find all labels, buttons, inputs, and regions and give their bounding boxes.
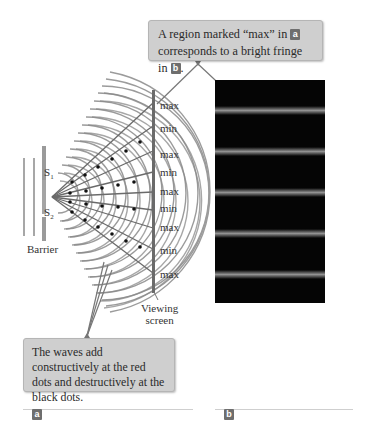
divider	[23, 409, 193, 410]
screen-marker: max	[160, 99, 179, 111]
screen-marker: min	[160, 244, 177, 256]
part-badge-a: a	[32, 409, 42, 420]
screen-marker: max	[160, 221, 179, 233]
bright-fringe	[215, 229, 325, 238]
barrier-label: Barrier	[27, 243, 58, 255]
part-badge-a: a	[290, 29, 300, 40]
screen-marker: max	[160, 185, 179, 197]
screen-marker: max	[160, 268, 179, 280]
fringe-pattern-panel	[215, 80, 325, 303]
screen-marker: max	[160, 148, 179, 160]
screen-marker: min	[160, 122, 177, 134]
part-label-a: a	[23, 404, 33, 422]
screen-marker: min	[160, 202, 177, 214]
bright-fringe	[215, 106, 325, 115]
callout-max-bright-fringe: A region marked “max” in a corresponds t…	[148, 20, 323, 61]
source-label-s2: S2	[44, 206, 54, 221]
source-label-s1: S1	[44, 166, 54, 181]
viewing-screen-label: Viewing screen	[141, 302, 178, 326]
divider	[215, 409, 353, 410]
bright-fringe	[215, 270, 325, 279]
bright-fringe	[215, 188, 325, 197]
part-badge-b: b	[171, 63, 181, 74]
part-label-b: b	[215, 404, 225, 422]
bright-fringe	[215, 147, 325, 156]
viewing-screen	[152, 90, 155, 293]
part-badge-b: b	[224, 409, 234, 420]
screen-marker: min	[160, 166, 177, 178]
callout-constructive-destructive: The waves add constructively at the red …	[23, 338, 175, 392]
